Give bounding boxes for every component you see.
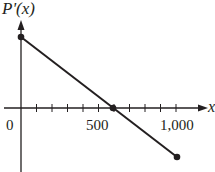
y-axis-arrow-icon [18, 20, 25, 30]
y-axis-label: P'(x) [1, 0, 35, 18]
tick-label-0: 0 [6, 117, 14, 133]
point-y-intercept [18, 34, 25, 41]
point-x-intercept [110, 105, 117, 112]
x-axis-arrow-icon [198, 105, 208, 112]
y-axis [18, 20, 25, 172]
series-p-prime [18, 34, 181, 161]
x-axis-label: x [207, 98, 215, 115]
x-axis [4, 104, 208, 112]
tick-label-1000: 1,000 [160, 117, 194, 133]
chart: P'(x) x 0 500 1,000 [0, 0, 215, 172]
tick-label-500: 500 [86, 117, 109, 133]
point-endpoint [174, 154, 181, 161]
